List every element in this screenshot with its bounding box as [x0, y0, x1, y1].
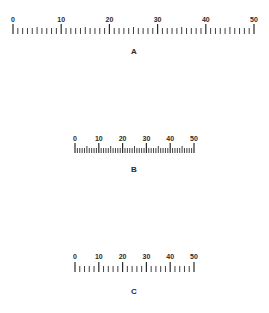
tick-label: 20 — [119, 253, 127, 260]
ruler-c: 01020304050 — [0, 0, 269, 313]
tick-label: 50 — [190, 253, 198, 260]
tick-label: 30 — [143, 253, 151, 260]
ruler-c-caption: C — [131, 288, 137, 296]
tick-label: 10 — [95, 253, 103, 260]
ruler-c-scale: 01020304050 — [0, 0, 269, 313]
tick-label: 0 — [73, 253, 77, 260]
tick-label: 40 — [166, 253, 174, 260]
